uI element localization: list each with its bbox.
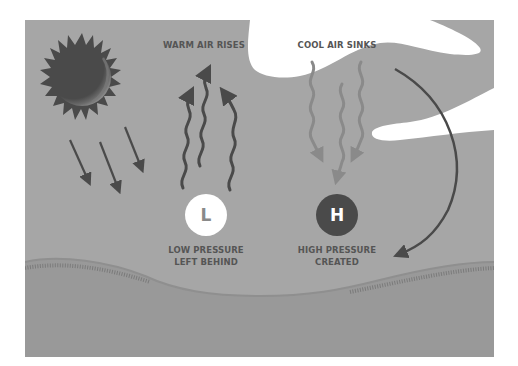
high-pressure-label-line2: CREATED xyxy=(315,257,359,267)
high-pressure-marker: H xyxy=(316,194,358,236)
low-pressure-label-line1: LOW PRESSURE xyxy=(168,245,244,255)
low-pressure-label-line2: LEFT BEHIND xyxy=(174,257,238,267)
warm-air-label: WARM AIR RISES xyxy=(163,40,245,50)
cool-air-label: COOL AIR SINKS xyxy=(298,40,377,50)
pressure-diagram: WARM AIR RISES COOL AIR SINKS L LOW PRES… xyxy=(0,0,518,366)
high-pressure-letter: H xyxy=(330,205,344,225)
high-pressure-label-line1: HIGH PRESSURE xyxy=(298,245,376,255)
low-pressure-letter: L xyxy=(201,205,212,225)
low-pressure-marker: L xyxy=(185,194,227,236)
